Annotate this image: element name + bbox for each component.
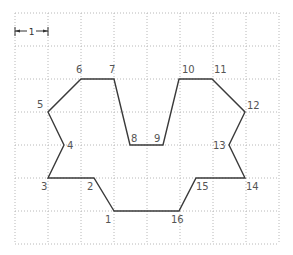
vertex-label-9: 9 bbox=[154, 133, 160, 144]
vertex-label-15: 15 bbox=[196, 181, 209, 192]
vertex-label-1: 1 bbox=[105, 214, 111, 225]
scale-marker: 1 bbox=[15, 27, 48, 37]
vertex-label-14: 14 bbox=[246, 181, 259, 192]
scale-arrow-left-icon bbox=[15, 30, 20, 33]
vertex-label-6: 6 bbox=[76, 64, 82, 75]
vertex-label-3: 3 bbox=[41, 181, 47, 192]
vertex-label-4: 4 bbox=[67, 140, 73, 151]
vertex-label-16: 16 bbox=[171, 214, 184, 225]
polygon-grid-diagram: 1 12345678910111213141516 bbox=[0, 0, 293, 255]
vertex-label-10: 10 bbox=[182, 64, 195, 75]
vertex-label-8: 8 bbox=[131, 133, 137, 144]
vertex-label-7: 7 bbox=[109, 64, 115, 75]
vertex-label-5: 5 bbox=[37, 99, 43, 110]
vertex-label-2: 2 bbox=[87, 181, 93, 192]
scale-label: 1 bbox=[29, 27, 35, 37]
vertex-label-12: 12 bbox=[247, 100, 260, 111]
vertex-label-13: 13 bbox=[213, 140, 226, 151]
vertex-label-11: 11 bbox=[214, 64, 227, 75]
scale-arrow-right-icon bbox=[43, 30, 48, 33]
dotted-grid bbox=[15, 13, 279, 244]
